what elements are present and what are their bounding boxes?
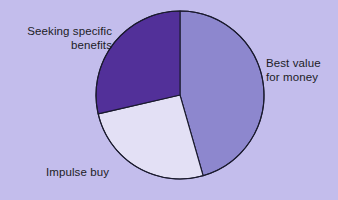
pie-label-seeking-specific-benefits: Seeking specific benefits — [8, 24, 112, 52]
pie-chart-figure: Seeking specific benefits Best value for… — [0, 0, 338, 200]
pie-label-impulse-buy: Impulse buy — [46, 165, 156, 179]
pie-label-best-value-for-money: Best value for money — [266, 56, 336, 84]
